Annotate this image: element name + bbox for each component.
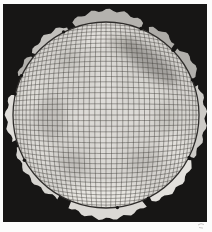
- rim-mark: [147, 196, 150, 199]
- rim-mark: [23, 159, 26, 162]
- rim-mark: [191, 78, 194, 81]
- rim-mark: [171, 49, 174, 52]
- rim-mark: [62, 30, 65, 33]
- membrane-grid-photo: [0, 0, 212, 232]
- rim-mark: [187, 156, 190, 159]
- rim-mark: [116, 206, 119, 209]
- scanned-figure-page: [0, 0, 212, 232]
- rim-mark: [20, 74, 23, 77]
- rim-mark: [13, 92, 16, 95]
- rim-mark: [139, 27, 142, 30]
